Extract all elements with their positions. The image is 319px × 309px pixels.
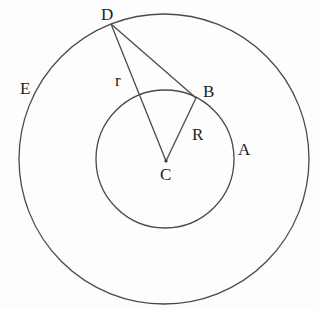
label-b: B xyxy=(203,82,214,101)
segment-d-c xyxy=(111,24,166,161)
diagram-svg: D E r B R A C xyxy=(0,0,319,309)
label-e: E xyxy=(20,79,30,98)
point-c xyxy=(164,159,167,162)
label-r-big: R xyxy=(192,125,204,144)
label-a: A xyxy=(238,140,251,159)
geometry-diagram: D E r B R A C xyxy=(0,0,319,309)
outer-circle xyxy=(19,14,309,304)
label-c: C xyxy=(160,165,171,184)
label-d: D xyxy=(101,5,113,24)
segment-d-b xyxy=(111,24,196,98)
label-r-small: r xyxy=(115,71,121,90)
